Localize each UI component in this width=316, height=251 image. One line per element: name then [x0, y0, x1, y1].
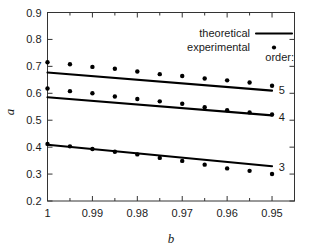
data-point-order-5: [270, 84, 274, 88]
y-axis-title: a: [2, 108, 17, 115]
legend-experimental-dot-sample: [272, 45, 276, 49]
chart-figure: 0.20.30.40.50.60.70.80.9 10.990.980.970.…: [0, 0, 316, 251]
x-tick-label: 0.99: [82, 207, 103, 219]
data-point-order-4: [135, 97, 139, 101]
data-point-order-3: [225, 166, 229, 170]
theoretical-line-order-3: [48, 145, 273, 167]
x-tick-label: 0.96: [216, 207, 237, 219]
y-tick-label: 0.5: [26, 114, 41, 126]
data-point-order-5: [68, 62, 72, 66]
data-point-order-4: [158, 99, 162, 103]
data-point-order-4: [247, 110, 251, 114]
x-tick-label: 0.97: [172, 207, 193, 219]
data-point-order-4: [113, 94, 117, 98]
data-point-order-4: [270, 112, 274, 116]
data-point-order-5: [180, 74, 184, 78]
order-annotation: 3: [279, 161, 285, 173]
data-point-order-5: [225, 78, 229, 82]
data-point-order-3: [270, 172, 274, 176]
data-point-order-3: [202, 162, 206, 166]
order-annotation: 5: [279, 84, 285, 96]
data-point-order-3: [113, 150, 117, 154]
data-point-order-5: [135, 69, 139, 73]
experimental-series-group: [45, 60, 274, 176]
data-point-order-3: [68, 144, 72, 148]
order-annotation-group: order:543: [265, 51, 294, 173]
y-tick-label: 0.4: [26, 141, 41, 153]
data-point-order-3: [158, 156, 162, 160]
y-tick-label: 0.7: [26, 60, 41, 72]
data-point-order-5: [45, 60, 49, 64]
y-tick-label: 0.9: [26, 7, 41, 19]
order-annotation: 4: [279, 111, 285, 123]
data-point-order-3: [135, 152, 139, 156]
x-tick-label: 1: [44, 207, 50, 219]
y-axis-tick-labels: 0.20.30.40.50.60.70.80.9: [26, 7, 41, 208]
data-point-order-3: [45, 142, 49, 146]
theoretical-series-group: [48, 73, 273, 167]
y-tick-label: 0.2: [26, 195, 41, 207]
data-point-order-3: [90, 147, 94, 151]
legend-item-theoretical-label: theoretical: [199, 27, 250, 39]
x-tick-label: 0.95: [261, 207, 282, 219]
data-point-order-4: [68, 89, 72, 93]
x-tick-label: 0.98: [127, 207, 148, 219]
order-annotation: order:: [265, 51, 294, 63]
y-tick-label: 0.3: [26, 168, 41, 180]
data-point-order-3: [247, 169, 251, 173]
x-axis-title: b: [168, 231, 175, 246]
data-point-order-3: [180, 159, 184, 163]
data-point-order-5: [90, 65, 94, 69]
x-axis-tick-labels: 10.990.980.970.960.95: [44, 207, 282, 219]
chart-canvas: 0.20.30.40.50.60.70.80.9 10.990.980.970.…: [0, 0, 316, 251]
data-point-order-4: [225, 108, 229, 112]
chart-legend: theoretical experimental: [187, 27, 292, 53]
y-tick-label: 0.8: [26, 33, 41, 45]
data-point-order-4: [202, 105, 206, 109]
data-point-order-5: [158, 72, 162, 76]
legend-item-experimental-label: experimental: [187, 41, 250, 53]
y-tick-label: 0.6: [26, 87, 41, 99]
data-point-order-4: [180, 102, 184, 106]
data-point-order-5: [247, 80, 251, 84]
data-point-order-4: [45, 86, 49, 90]
data-point-order-5: [113, 67, 117, 71]
data-point-order-5: [202, 76, 206, 80]
data-point-order-4: [90, 91, 94, 95]
